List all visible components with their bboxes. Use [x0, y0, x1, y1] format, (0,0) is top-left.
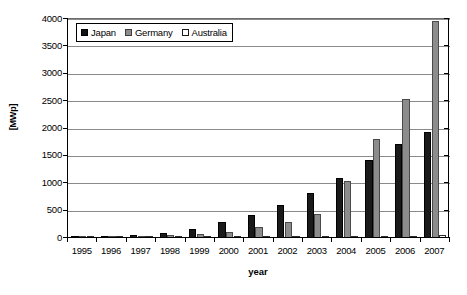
bar-chart: [MWp] 40003500300025002000150010005000 y… — [0, 0, 467, 295]
y-axis-tick-label: 4000 — [32, 14, 62, 23]
x-axis-tick-mark — [420, 238, 421, 242]
legend-label-germany: Germany — [135, 27, 173, 38]
x-axis-tick-mark — [126, 238, 127, 242]
bar-group — [307, 19, 329, 238]
x-axis-tick-label: 2007 — [417, 245, 451, 256]
bar-germany-2003 — [314, 214, 321, 238]
x-axis-tick-mark — [214, 238, 215, 242]
x-axis-tick-mark — [243, 238, 244, 242]
white-square-icon — [182, 29, 189, 36]
bar-germany-2007 — [432, 21, 439, 238]
y-axis-tick-mark-right — [444, 100, 449, 101]
bar-group — [130, 19, 152, 238]
x-axis-tick-mark — [155, 238, 156, 242]
bar-japan-2001 — [248, 215, 255, 238]
y-axis-tick-mark — [63, 73, 68, 74]
y-axis-tick-mark-right — [444, 210, 449, 211]
bar-japan-2004 — [336, 178, 343, 238]
y-axis-tick-label: 2500 — [32, 96, 62, 105]
x-axis-tick-mark — [302, 238, 303, 242]
x-axis-tick-mark — [273, 238, 274, 242]
y-axis-tick-mark — [63, 18, 68, 19]
bar-japan-2000 — [218, 222, 225, 238]
y-axis-title: [MWp] — [8, 87, 18, 147]
legend-item-australia: Australia — [182, 27, 227, 38]
y-axis-tick-mark — [63, 210, 68, 211]
bar-germany-2006 — [402, 99, 409, 238]
y-axis-tick-mark — [63, 128, 68, 129]
bar-group — [248, 19, 270, 238]
y-axis-tick-labels: 40003500300025002000150010005000 — [28, 0, 62, 295]
gray-square-icon — [125, 29, 132, 36]
y-axis-tick-label: 1500 — [32, 150, 62, 159]
y-axis-tick-label: 3000 — [32, 68, 62, 77]
bar-group — [101, 19, 123, 238]
y-axis-tick-label: 2000 — [32, 123, 62, 132]
x-axis-line — [67, 237, 450, 238]
x-axis-tick-mark — [96, 238, 97, 242]
bar-group — [424, 19, 446, 238]
black-square-icon — [81, 29, 88, 36]
legend-item-japan: Japan — [81, 27, 116, 38]
y-axis-tick-mark-right — [444, 182, 449, 183]
x-axis-tick-mark — [390, 238, 391, 242]
legend-label-japan: Japan — [91, 27, 116, 38]
y-axis-tick-mark — [63, 155, 68, 156]
x-axis-tick-mark — [67, 238, 68, 242]
y-axis-tick-label: 1000 — [32, 178, 62, 187]
legend-label-australia: Australia — [192, 27, 227, 38]
bar-japan-2005 — [365, 160, 372, 238]
y-axis-tick-label: 3500 — [32, 41, 62, 50]
legend-item-germany: Germany — [125, 27, 173, 38]
y-axis-tick-mark-right — [444, 155, 449, 156]
bar-japan-2007 — [424, 132, 431, 238]
bar-group — [218, 19, 240, 238]
bar-japan-2006 — [395, 144, 402, 238]
bar-group — [277, 19, 299, 238]
y-axis-tick-mark — [63, 182, 68, 183]
x-axis-tick-mark — [331, 238, 332, 242]
y-axis-tick-mark-right — [444, 73, 449, 74]
y-axis-tick-mark-right — [444, 18, 449, 19]
bar-japan-2003 — [307, 193, 314, 238]
y-axis-tick-mark — [63, 45, 68, 46]
x-axis-tick-mark — [361, 238, 362, 242]
bar-group — [365, 19, 387, 238]
x-axis-title: year — [67, 266, 449, 277]
bar-group — [160, 19, 182, 238]
y-axis-tick-label: 500 — [32, 205, 62, 214]
y-axis-tick-label: 0 — [32, 233, 62, 242]
plot-area — [67, 18, 450, 238]
x-axis-tick-mark — [185, 238, 186, 242]
bar-group — [71, 19, 93, 238]
bar-japan-2002 — [277, 205, 284, 238]
y-axis-tick-mark — [63, 100, 68, 101]
y-axis-tick-mark-right — [444, 45, 449, 46]
bar-germany-2004 — [344, 181, 351, 238]
y-axis-tick-mark-right — [444, 128, 449, 129]
x-axis-tick-mark — [449, 238, 450, 242]
bar-group — [395, 19, 417, 238]
bar-group — [336, 19, 358, 238]
chart-legend: Japan Germany Australia — [76, 23, 233, 42]
bar-group — [189, 19, 211, 238]
bar-germany-2002 — [285, 222, 292, 238]
bar-germany-2005 — [373, 139, 380, 238]
